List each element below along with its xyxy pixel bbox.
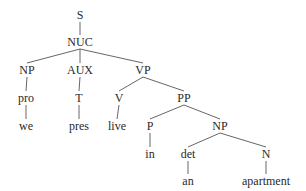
tree-edge bbox=[220, 133, 266, 147]
tree-node-p: P bbox=[147, 120, 154, 132]
tree-node-an: an bbox=[182, 175, 193, 187]
tree-edge bbox=[188, 133, 220, 147]
tree-node-pp: PP bbox=[177, 92, 190, 104]
tree-edge bbox=[119, 77, 143, 91]
tree-node-live: live bbox=[108, 120, 126, 132]
syntax-tree-edges bbox=[0, 0, 306, 191]
tree-node-nuc: NUC bbox=[67, 36, 92, 48]
tree-node-vp: VP bbox=[135, 64, 150, 76]
tree-node-pres: pres bbox=[69, 120, 89, 132]
tree-node-s: S bbox=[77, 9, 84, 21]
tree-edge bbox=[80, 49, 143, 63]
tree-node-aux: AUX bbox=[67, 64, 93, 76]
tree-node-apartment: apartment bbox=[242, 175, 290, 187]
tree-node-np1: NP bbox=[19, 64, 34, 76]
tree-edge bbox=[27, 49, 80, 63]
tree-edge bbox=[184, 105, 220, 119]
tree-edge bbox=[150, 105, 184, 119]
tree-edge bbox=[26, 77, 27, 91]
tree-node-det: det bbox=[181, 148, 196, 160]
tree-node-t: T bbox=[75, 92, 82, 104]
tree-node-v: V bbox=[115, 92, 124, 104]
tree-node-n: N bbox=[262, 148, 271, 160]
tree-node-pro: pro bbox=[18, 92, 34, 104]
tree-node-np2: NP bbox=[212, 120, 227, 132]
tree-node-we: we bbox=[19, 120, 33, 132]
tree-edge bbox=[79, 77, 80, 91]
tree-node-in: in bbox=[145, 148, 154, 160]
tree-edge bbox=[143, 77, 184, 91]
tree-edge bbox=[117, 105, 119, 119]
